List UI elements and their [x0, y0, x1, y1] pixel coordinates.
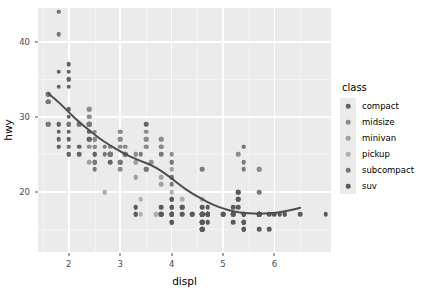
legend-item-suv[interactable]: suv: [340, 178, 420, 194]
legend-key-swatch: [340, 162, 356, 178]
x-tick-label: 2: [66, 259, 71, 269]
legend-item-midsize[interactable]: midsize: [340, 114, 420, 130]
legend-title: class: [342, 82, 420, 93]
legend-point-icon: [346, 152, 351, 157]
legend-item-label: compact: [362, 101, 399, 111]
legend-item-label: minivan: [362, 133, 396, 143]
x-tick-mark: [120, 253, 121, 256]
legend-point-icon: [346, 168, 351, 173]
legend-key-swatch: [340, 98, 356, 114]
x-tick-mark: [171, 253, 172, 256]
x-tick-label: 4: [169, 259, 174, 269]
legend-item-label: midsize: [362, 117, 395, 127]
x-axis-title: displ: [38, 275, 331, 287]
loess-smooth-line: [38, 8, 331, 252]
legend: class compactmidsizeminivanpickupsubcomp…: [340, 82, 420, 194]
legend-key-swatch: [340, 178, 356, 194]
legend-point-icon: [346, 184, 351, 189]
scatter-plot-figure: 203040 23456 hwy displ class compactmids…: [0, 0, 422, 295]
plot-panel: [38, 8, 331, 252]
legend-point-icon: [346, 120, 351, 125]
legend-point-icon: [346, 136, 351, 141]
legend-item-subcompact[interactable]: subcompact: [340, 162, 420, 178]
y-tick-mark: [35, 116, 38, 117]
legend-point-icon: [346, 104, 351, 109]
y-axis-title: hwy: [2, 119, 14, 140]
legend-item-label: suv: [362, 181, 377, 191]
legend-item-compact[interactable]: compact: [340, 98, 420, 114]
y-tick-mark: [35, 41, 38, 42]
legend-key-swatch: [340, 114, 356, 130]
x-tick-label: 5: [220, 259, 225, 269]
y-tick-label: 40: [8, 37, 30, 47]
x-tick-mark: [223, 253, 224, 256]
legend-item-pickup[interactable]: pickup: [340, 146, 420, 162]
legend-items: compactmidsizeminivanpickupsubcompactsuv: [340, 98, 420, 194]
y-tick-label: 20: [8, 187, 30, 197]
x-tick-mark: [274, 253, 275, 256]
legend-item-label: subcompact: [362, 165, 414, 175]
legend-item-label: pickup: [362, 149, 390, 159]
legend-item-minivan[interactable]: minivan: [340, 130, 420, 146]
legend-key-swatch: [340, 146, 356, 162]
x-tick-mark: [68, 253, 69, 256]
x-tick-label: 3: [118, 259, 123, 269]
legend-key-swatch: [340, 130, 356, 146]
x-tick-label: 6: [272, 259, 277, 269]
y-tick-mark: [35, 191, 38, 192]
